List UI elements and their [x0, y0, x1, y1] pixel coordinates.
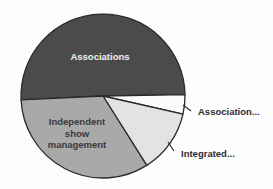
slice-label-integrated: Integrated...	[181, 148, 235, 159]
slice-label-associations: Associations	[70, 51, 129, 62]
pie-slices	[21, 14, 185, 178]
slice-label-association: Association...	[198, 106, 260, 117]
leader-line-integrated	[168, 142, 174, 151]
pie-chart: AssociationsAssociation...Integrated...I…	[0, 0, 273, 189]
